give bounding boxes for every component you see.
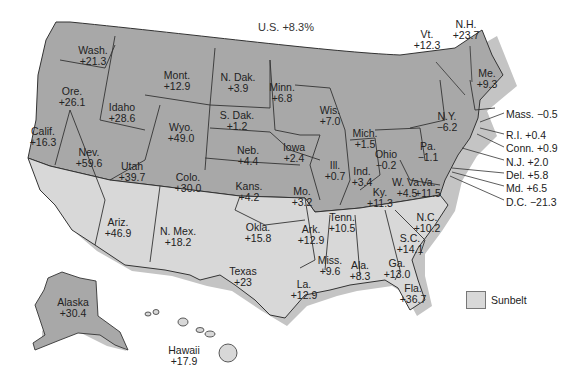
state-label: Fla.+36.7 xyxy=(400,283,427,305)
callout-label: Conn. +0.9 xyxy=(506,142,558,154)
state-value: +16.3 xyxy=(30,137,57,148)
state-value: +2.4 xyxy=(283,153,305,164)
state-label: Mich.+1.5 xyxy=(352,128,377,150)
state-value: +3.2 xyxy=(292,197,313,208)
state-value: +46.9 xyxy=(105,228,132,239)
state-value: −1.1 xyxy=(418,152,439,163)
state-value: +4.4 xyxy=(237,156,259,167)
state-label: Me.+9.3 xyxy=(477,68,498,90)
state-value: +23 xyxy=(229,277,256,288)
state-label: Hawaii+17.9 xyxy=(168,345,200,367)
state-label: Kans.+4.2 xyxy=(236,181,263,203)
state-value: +8.3 xyxy=(350,271,371,282)
state-label: Wis.+7.0 xyxy=(320,105,341,127)
state-label: Wyo.+49.0 xyxy=(168,122,195,144)
state-value: +10.5 xyxy=(329,223,356,234)
state-label: Ill.+0.7 xyxy=(325,160,346,182)
callout-label: Del. +5.8 xyxy=(506,169,548,181)
state-label: Idaho+28.6 xyxy=(109,102,136,124)
state-value: −0.2 xyxy=(375,160,397,171)
state-value: +12.9 xyxy=(291,290,318,301)
state-label: Miss.+9.6 xyxy=(318,255,343,277)
state-label: Calif.+16.3 xyxy=(30,126,57,148)
sunbelt-swatch xyxy=(466,291,486,309)
callout-label: Mass. −0.5 xyxy=(506,108,558,120)
state-label: Texas+23 xyxy=(229,266,256,288)
state-value: +11.3 xyxy=(367,198,393,209)
state-value: +21.3 xyxy=(78,56,107,67)
state-value: +0.7 xyxy=(325,171,346,182)
state-value: +1.5 xyxy=(352,139,377,150)
legend-label: Sunbelt xyxy=(491,294,527,306)
state-label: Va.+11.5 xyxy=(415,177,441,199)
callout-label: R.I. +0.4 xyxy=(506,129,546,141)
state-value: +28.6 xyxy=(109,113,136,124)
state-value: +7.0 xyxy=(320,116,341,127)
state-label: Ohio−0.2 xyxy=(375,149,397,171)
callout-label: Vt.+12.3 xyxy=(414,29,441,51)
state-label: N.Y.−6.2 xyxy=(437,111,458,133)
state-label: Alaska+30.4 xyxy=(57,297,89,319)
state-value: +1.2 xyxy=(220,121,254,132)
state-value: +11.5 xyxy=(415,188,441,199)
state-value: +30.4 xyxy=(57,308,89,319)
state-label: N. Mex.+18.2 xyxy=(160,226,196,248)
state-label: Mont.+12.9 xyxy=(164,70,191,92)
state-value: −6.2 xyxy=(437,122,458,133)
state-value: +36.7 xyxy=(400,294,427,305)
state-label: S.C.+14.1 xyxy=(397,233,424,255)
state-value: +18.2 xyxy=(160,237,196,248)
state-label: Iowa+2.4 xyxy=(283,142,305,164)
callout-label: D.C. −21.3 xyxy=(506,196,557,208)
state-value: +30.0 xyxy=(175,183,202,194)
state-label: Ind.+3.4 xyxy=(352,166,373,188)
state-value: +9.3 xyxy=(477,79,498,90)
state-value: +12.9 xyxy=(298,235,325,246)
state-label: Wash.+21.3 xyxy=(78,45,107,67)
state-label: Neb.+4.4 xyxy=(237,145,259,167)
state-value: +12.9 xyxy=(164,81,191,92)
state-label: Pa.−1.1 xyxy=(418,141,439,163)
state-label: Nev.+59.6 xyxy=(76,147,103,169)
callout-label: N.J. +2.0 xyxy=(506,156,548,168)
state-label: Ky.+11.3 xyxy=(367,187,393,209)
state-value: +3.9 xyxy=(220,83,255,94)
state-label: Ala.+8.3 xyxy=(350,260,371,282)
state-value: +39.7 xyxy=(119,172,146,183)
state-value: +14.1 xyxy=(397,244,424,255)
state-value: +49.0 xyxy=(168,133,195,144)
state-label: La.+12.9 xyxy=(291,279,318,301)
state-label: N. Dak.+3.9 xyxy=(220,72,255,94)
state-label: Tenn.+10.5 xyxy=(329,212,356,234)
state-value: +17.9 xyxy=(168,356,200,367)
state-label: Mo.+3.2 xyxy=(292,186,313,208)
state-label: Ariz.+46.9 xyxy=(105,217,132,239)
state-value: +15.8 xyxy=(245,233,272,244)
state-value: +13.0 xyxy=(384,269,411,280)
state-label: Okla.+15.8 xyxy=(245,222,272,244)
state-value: +6.8 xyxy=(269,93,295,104)
state-label: Ark.+12.9 xyxy=(298,224,325,246)
state-label: Colo.+30.0 xyxy=(175,172,202,194)
state-value: +9.6 xyxy=(318,266,343,277)
callout-label: Md. +6.5 xyxy=(506,182,547,194)
state-label: N.C.+10.2 xyxy=(414,212,441,234)
state-label: Minn.+6.8 xyxy=(269,82,295,104)
state-label: Utah+39.7 xyxy=(119,161,146,183)
legend: Sunbelt xyxy=(466,291,527,309)
state-value: +4.2 xyxy=(236,192,263,203)
state-label: Ore.+26.1 xyxy=(59,86,86,108)
state-value: +59.6 xyxy=(76,158,103,169)
callout-label: N.H.+23.7 xyxy=(453,19,480,41)
map-title: U.S. +8.3% xyxy=(258,21,314,33)
state-label: Ga.+13.0 xyxy=(384,258,411,280)
state-value: +10.2 xyxy=(414,223,441,234)
state-label: S. Dak.+1.2 xyxy=(220,110,254,132)
state-value: +26.1 xyxy=(59,97,86,108)
